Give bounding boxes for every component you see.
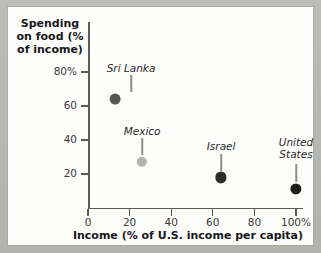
y-axis-tick-label: 80% <box>54 66 77 77</box>
point-leader-line <box>141 138 143 155</box>
scatter-plot-area: Spending on food (% of income) Income (%… <box>8 7 313 245</box>
point-leader-line <box>220 154 222 171</box>
x-axis-tick-label: 0 <box>85 217 92 228</box>
point-label-sri-lanka: Sri Lanka <box>107 63 156 75</box>
x-axis-tick <box>212 209 213 216</box>
y-axis-tick <box>81 105 88 106</box>
point-label-israel: Israel <box>207 141 236 153</box>
data-point-sri-lanka[interactable] <box>110 94 121 105</box>
data-point-united-states[interactable] <box>290 184 301 195</box>
y-axis-tick <box>81 139 88 140</box>
x-axis-tick <box>295 209 296 216</box>
x-axis-title: Income (% of U.S. income per capita) <box>68 229 308 242</box>
y-axis-tick-label: 20 <box>64 168 77 179</box>
x-axis-line <box>88 208 303 210</box>
point-leader-line <box>130 75 132 92</box>
x-axis-tick <box>171 209 172 216</box>
chart-figure: Spending on food (% of income) Income (%… <box>8 7 313 245</box>
x-axis-tick <box>87 209 88 216</box>
point-label-united-states: UnitedStates <box>279 137 314 160</box>
point-leader-line <box>295 164 297 183</box>
x-axis-tick-label: 40 <box>165 217 178 228</box>
x-axis-tick <box>254 209 255 216</box>
x-axis-tick-label: 100% <box>281 217 311 228</box>
scanned-page-backdrop: Spending on food (% of income) Income (%… <box>0 0 321 253</box>
data-point-mexico[interactable] <box>137 157 147 167</box>
point-label-mexico: Mexico <box>124 126 161 138</box>
x-axis-tick-label: 60 <box>206 217 219 228</box>
data-point-israel[interactable] <box>216 172 227 183</box>
y-axis-tick <box>81 173 88 174</box>
y-axis-tick <box>81 71 88 72</box>
x-axis-tick <box>129 209 130 216</box>
x-axis-tick-label: 80 <box>248 217 261 228</box>
y-axis-title: Spending on food (% of income) <box>16 17 84 57</box>
y-axis-tick-label: 60 <box>64 100 77 111</box>
y-axis-line <box>88 22 90 209</box>
x-axis-tick-label: 20 <box>123 217 136 228</box>
y-axis-tick-label: 40 <box>64 134 77 145</box>
